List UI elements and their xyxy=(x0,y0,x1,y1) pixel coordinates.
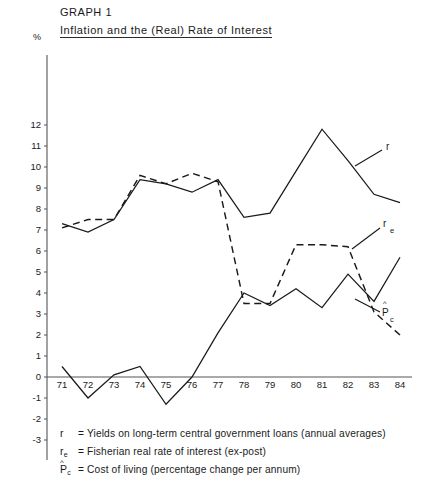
y-tick-label: 7 xyxy=(36,224,41,235)
x-tick-label: 75 xyxy=(161,379,172,390)
x-tick-label: 83 xyxy=(369,379,380,390)
y-tick-label: 0 xyxy=(36,371,41,382)
curve-label-pc-text: P xyxy=(382,307,389,318)
x-tick-labels: 7172737475767778798081828384 xyxy=(57,379,406,390)
curve-label-re-text: r xyxy=(383,218,387,229)
legend-symbol-sub-re: e xyxy=(64,451,68,458)
legend-symbol-r: r xyxy=(60,428,77,439)
y-tick-label: 10 xyxy=(30,161,41,172)
x-tick-label: 71 xyxy=(57,379,68,390)
y-tick-label: 12 xyxy=(30,119,41,130)
x-tick-label: 72 xyxy=(83,379,94,390)
chart-series-layer xyxy=(62,129,400,404)
legend-text-re: = Fisherian real rate of interest (ex-po… xyxy=(77,447,266,457)
x-tick-label: 73 xyxy=(109,379,120,390)
y-tick-label: -1 xyxy=(33,392,41,403)
chart-plot-area: -3-2-10123456789101112 71727374757677787… xyxy=(0,0,421,495)
y-tick-label: 6 xyxy=(36,245,41,256)
y-tick-label: 8 xyxy=(36,203,41,214)
y-tick-labels: -3-2-10123456789101112 xyxy=(30,119,47,445)
legend: r = Yields on long-term central governme… xyxy=(60,428,418,483)
curve-label-pc-subscript: c xyxy=(390,315,394,324)
legend-symbol-pc: ^ Pc xyxy=(60,464,77,475)
legend-text-pc: = Cost of living (percentage change per … xyxy=(77,465,300,475)
x-tick-label: 74 xyxy=(135,379,146,390)
y-tick-label: 3 xyxy=(36,308,41,319)
legend-symbol-hat-pc: ^ xyxy=(60,459,64,467)
curve-label-re-subscript: e xyxy=(390,226,394,235)
y-tick-label: 9 xyxy=(36,182,41,193)
x-tick-label: 84 xyxy=(395,379,406,390)
curve-label-re: r e xyxy=(352,218,394,249)
y-tick-label: 2 xyxy=(36,329,41,340)
x-tick-label: 77 xyxy=(213,379,224,390)
curve-label-r-text: r xyxy=(386,141,390,152)
x-tick-label: 82 xyxy=(343,379,354,390)
y-tick-label: -3 xyxy=(33,434,41,445)
x-tick-label: 79 xyxy=(265,379,276,390)
legend-symbol-sub-pc: c xyxy=(67,469,71,476)
legend-text-r: = Yields on long-term central government… xyxy=(77,429,386,439)
series-line-r xyxy=(62,129,400,232)
x-tick-label: 81 xyxy=(317,379,328,390)
legend-item: r = Yields on long-term central governme… xyxy=(60,428,418,439)
y-tick-label: 11 xyxy=(31,140,41,151)
legend-item: re = Fisherian real rate of interest (ex… xyxy=(60,446,418,457)
y-tick-label: 4 xyxy=(36,287,41,298)
y-tick-label: -2 xyxy=(33,413,41,424)
legend-symbol-re: re xyxy=(60,446,77,457)
graph-figure: GRAPH 1 Inflation and the (Real) Rate of… xyxy=(0,0,421,495)
legend-symbol-base-r: r xyxy=(60,427,64,439)
x-tick-label: 80 xyxy=(291,379,302,390)
y-tick-label: 5 xyxy=(36,266,41,277)
y-tick-label: 1 xyxy=(36,350,41,361)
chart-axes xyxy=(47,55,412,460)
legend-item: ^ Pc = Cost of living (percentage change… xyxy=(60,464,418,475)
x-tick-label: 78 xyxy=(239,379,250,390)
curve-label-r: r xyxy=(355,141,390,166)
